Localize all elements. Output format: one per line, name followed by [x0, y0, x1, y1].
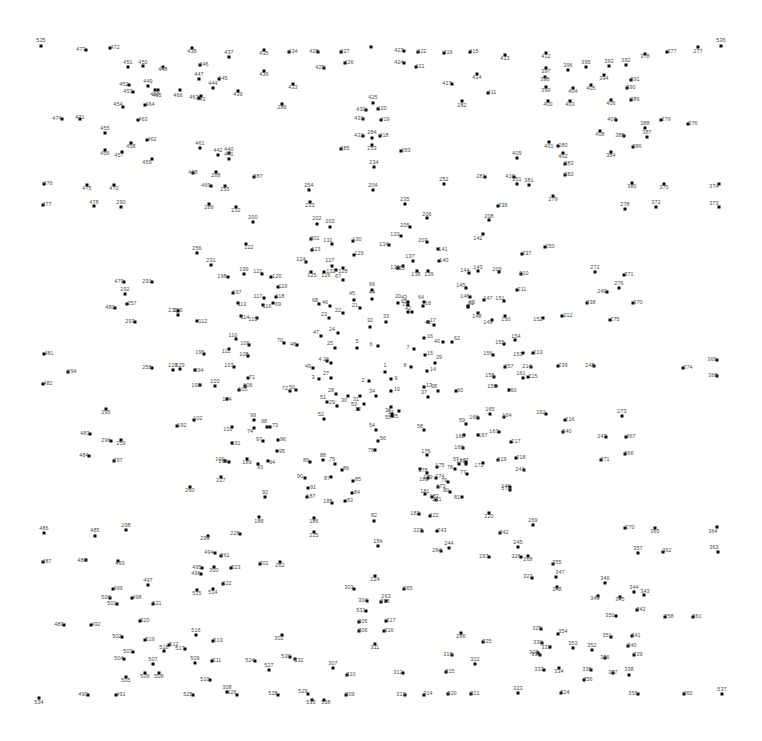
puzzle-dot[interactable]	[437, 390, 440, 393]
puzzle-dot[interactable]	[412, 260, 415, 263]
puzzle-dot[interactable]	[332, 667, 335, 670]
puzzle-dot[interactable]	[454, 468, 457, 471]
puzzle-dot[interactable]	[423, 337, 426, 340]
puzzle-dot[interactable]	[94, 535, 97, 538]
puzzle-dot[interactable]	[228, 56, 231, 59]
puzzle-dot[interactable]	[214, 385, 217, 388]
puzzle-dot[interactable]	[195, 634, 198, 637]
puzzle-dot[interactable]	[423, 301, 426, 304]
puzzle-dot[interactable]	[404, 203, 407, 206]
puzzle-dot[interactable]	[147, 584, 150, 587]
puzzle-dot[interactable]	[433, 324, 436, 327]
puzzle-dot[interactable]	[618, 287, 621, 290]
puzzle-dot[interactable]	[212, 87, 215, 90]
puzzle-dot[interactable]	[516, 183, 519, 186]
puzzle-dot[interactable]	[322, 459, 325, 462]
puzzle-dot[interactable]	[528, 184, 531, 187]
puzzle-dot[interactable]	[637, 552, 640, 555]
puzzle-dot[interactable]	[214, 552, 217, 555]
puzzle-dot[interactable]	[359, 307, 362, 310]
puzzle-dot[interactable]	[227, 276, 230, 279]
puzzle-dot[interactable]	[434, 362, 437, 365]
puzzle-dot[interactable]	[426, 370, 429, 373]
puzzle-dot[interactable]	[196, 252, 199, 255]
puzzle-dot[interactable]	[289, 390, 292, 393]
puzzle-dot[interactable]	[328, 317, 331, 320]
puzzle-dot[interactable]	[330, 377, 333, 380]
puzzle-dot[interactable]	[489, 413, 492, 416]
puzzle-dot[interactable]	[644, 127, 647, 130]
puzzle-dot[interactable]	[532, 524, 535, 527]
puzzle-dot[interactable]	[264, 496, 267, 499]
puzzle-dot[interactable]	[390, 390, 393, 393]
puzzle-dot[interactable]	[43, 532, 46, 535]
puzzle-dot[interactable]	[356, 347, 359, 350]
puzzle-dot[interactable]	[152, 663, 155, 666]
puzzle-dot[interactable]	[517, 546, 520, 549]
puzzle-dot[interactable]	[157, 89, 160, 92]
puzzle-dot[interactable]	[717, 551, 720, 554]
puzzle-dot[interactable]	[318, 378, 321, 381]
puzzle-dot[interactable]	[443, 183, 446, 186]
puzzle-dot[interactable]	[177, 314, 180, 317]
puzzle-dot[interactable]	[555, 576, 558, 579]
puzzle-dot[interactable]	[120, 206, 123, 209]
puzzle-dot[interactable]	[326, 401, 329, 404]
puzzle-dot[interactable]	[363, 403, 366, 406]
puzzle-dot[interactable]	[263, 297, 266, 300]
puzzle-dot[interactable]	[373, 520, 376, 523]
puzzle-dot[interactable]	[377, 345, 380, 348]
puzzle-dot[interactable]	[621, 415, 624, 418]
puzzle-dot[interactable]	[172, 369, 175, 372]
puzzle-dot[interactable]	[594, 271, 597, 274]
puzzle-dot[interactable]	[427, 396, 430, 399]
puzzle-dot[interactable]	[646, 136, 649, 139]
puzzle-dot[interactable]	[721, 693, 724, 696]
puzzle-dot[interactable]	[377, 545, 380, 548]
puzzle-dot[interactable]	[125, 529, 128, 532]
puzzle-dot[interactable]	[604, 582, 607, 585]
puzzle-dot[interactable]	[198, 78, 201, 81]
puzzle-dot[interactable]	[334, 463, 337, 466]
puzzle-dot[interactable]	[522, 377, 525, 380]
puzzle-dot[interactable]	[400, 235, 403, 238]
puzzle-dot[interactable]	[347, 395, 350, 398]
puzzle-dot[interactable]	[567, 69, 570, 72]
puzzle-dot[interactable]	[252, 221, 255, 224]
puzzle-dot[interactable]	[390, 378, 393, 381]
puzzle-dot[interactable]	[591, 649, 594, 652]
puzzle-dot[interactable]	[384, 371, 387, 374]
puzzle-dot[interactable]	[127, 66, 130, 69]
puzzle-dot[interactable]	[124, 293, 127, 296]
puzzle-dot[interactable]	[371, 289, 374, 292]
puzzle-dot[interactable]	[323, 418, 326, 421]
puzzle-dot[interactable]	[335, 393, 338, 396]
puzzle-dot[interactable]	[304, 477, 307, 480]
puzzle-dot[interactable]	[217, 154, 220, 157]
puzzle-dot[interactable]	[375, 429, 378, 432]
puzzle-dot[interactable]	[628, 674, 631, 677]
puzzle-dot[interactable]	[516, 157, 519, 160]
puzzle-dot[interactable]	[316, 223, 319, 226]
puzzle-dot[interactable]	[147, 85, 150, 88]
puzzle-dot[interactable]	[243, 273, 246, 276]
puzzle-dot[interactable]	[368, 380, 371, 383]
puzzle-dot[interactable]	[372, 102, 375, 105]
puzzle-dot[interactable]	[371, 137, 374, 140]
puzzle-dot[interactable]	[375, 395, 378, 398]
puzzle-dot[interactable]	[371, 298, 374, 301]
puzzle-dot[interactable]	[40, 45, 43, 48]
puzzle-dot[interactable]	[104, 132, 107, 135]
puzzle-dot[interactable]	[474, 663, 477, 666]
puzzle-dot[interactable]	[199, 147, 202, 150]
puzzle-dot[interactable]	[266, 426, 269, 429]
puzzle-dot[interactable]	[330, 362, 333, 365]
puzzle-dot[interactable]	[336, 405, 339, 408]
puzzle-dot[interactable]	[461, 496, 464, 499]
puzzle-dot[interactable]	[228, 158, 231, 161]
puzzle-dot[interactable]	[334, 347, 337, 350]
puzzle-dot[interactable]	[329, 226, 332, 229]
puzzle-dot[interactable]	[608, 65, 611, 68]
puzzle-dot[interactable]	[308, 189, 311, 192]
puzzle-dot[interactable]	[720, 45, 723, 48]
